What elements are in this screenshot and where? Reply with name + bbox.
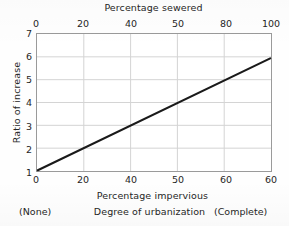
top-tick-label-5: 100 — [262, 18, 280, 29]
top-axis-title: Percentage sewered — [0, 2, 289, 13]
y-tick-label-2: 2 — [21, 144, 32, 155]
top-tick-label-2: 40 — [125, 18, 137, 29]
bottom-tick-label-1: 20 — [77, 174, 89, 185]
y-tick-label-7: 7 — [21, 28, 32, 39]
bottom-axis-title: Percentage impervious — [0, 190, 289, 201]
bottom-tick-label-3: 50 — [172, 174, 184, 185]
y-tick-label-3: 3 — [21, 121, 32, 132]
caption-complete: (Complete) — [214, 206, 267, 217]
bottom-tick-label-5: 60 — [265, 174, 277, 185]
plot-area — [36, 33, 272, 172]
top-tick-label-3: 50 — [172, 18, 184, 29]
data-series-line — [37, 34, 271, 171]
top-tick-label-1: 20 — [77, 18, 89, 29]
bottom-tick-label-2: 40 — [125, 174, 137, 185]
y-tick-label-1: 1 — [21, 167, 32, 178]
bottom-tick-label-4: 60 — [220, 174, 232, 185]
bottom-tick-label-0: 0 — [33, 174, 39, 185]
y-axis-title: Ratio of increase — [11, 48, 22, 158]
chart-figure: Percentage sewered 0 20 40 50 80 100 Rat… — [0, 0, 289, 226]
top-tick-label-4: 80 — [220, 18, 232, 29]
y-tick-label-6: 6 — [21, 51, 32, 62]
top-tick-label-0: 0 — [33, 18, 39, 29]
y-tick-label-5: 5 — [21, 74, 32, 85]
y-tick-label-4: 4 — [21, 97, 32, 108]
